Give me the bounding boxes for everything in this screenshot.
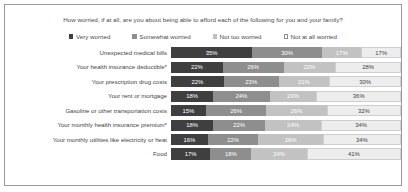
filled-square-icon xyxy=(132,34,137,39)
bar-segment: 24% xyxy=(251,148,306,159)
bar-segment: 22% xyxy=(171,62,223,73)
legend-item[interactable]: Somewhat worried xyxy=(132,33,190,40)
bar-row: Your prescription drug costs22%23%21%30% xyxy=(5,75,401,89)
chart-legend: Very worriedSomewhat worriedNot too worr… xyxy=(5,33,401,40)
bar-segment: 16% xyxy=(171,134,208,145)
stacked-bar: 18%24%20%36% xyxy=(171,91,401,102)
bar-segment: 18% xyxy=(210,148,251,159)
chart-container: How worried, if at all, are you about be… xyxy=(4,4,402,186)
bar-segment: 30% xyxy=(329,76,401,87)
category-label: Your monthly health insurance premium* xyxy=(5,122,171,128)
bar-segment: 41% xyxy=(307,148,401,159)
category-label: Unexpected medical bills xyxy=(5,50,171,56)
bar-row: Your monthly health insurance premium*18… xyxy=(5,118,401,132)
bar-segment: 15% xyxy=(171,105,206,116)
stacked-bar: 15%26%26%32% xyxy=(171,105,401,116)
bar-segment: 34% xyxy=(323,134,401,145)
bar-segment: 22% xyxy=(284,62,336,73)
stacked-bar: 17%18%24%41% xyxy=(171,148,401,159)
bar-segment: 17% xyxy=(361,47,400,58)
bar-segment: 35% xyxy=(171,47,252,58)
stacked-bar: 16%22%28%34% xyxy=(171,134,401,145)
stacked-bar-plot: Unexpected medical bills35%30%17%17%Your… xyxy=(5,46,401,162)
bar-segment: 17% xyxy=(322,47,361,58)
stacked-bar: 22%23%21%30% xyxy=(171,76,401,87)
category-label: Your monthly utilities like electricity … xyxy=(5,137,171,143)
filled-square-icon xyxy=(213,34,218,39)
category-label: Gasoline or other transportation costs xyxy=(5,108,171,114)
bar-row: Your health insurance deductible*22%26%2… xyxy=(5,60,401,74)
legend-label: Very worried xyxy=(76,33,110,40)
stacked-bar: 18%22%24%34% xyxy=(171,120,401,131)
bar-segment: 26% xyxy=(206,105,266,116)
legend-item[interactable]: Not at all worried xyxy=(284,33,337,40)
legend-item[interactable]: Very worried xyxy=(69,33,110,40)
bar-segment: 18% xyxy=(171,91,213,102)
category-label: Your health insurance deductible* xyxy=(5,64,171,70)
bar-segment: 24% xyxy=(265,120,321,131)
bar-segment: 30% xyxy=(252,47,322,58)
bar-row: Your monthly utilities like electricity … xyxy=(5,133,401,147)
bar-segment: 32% xyxy=(327,105,401,116)
legend-label: Not too worried xyxy=(220,33,262,40)
chart-title: How worried, if at all, are you about be… xyxy=(5,16,401,23)
bar-segment: 21% xyxy=(279,76,329,87)
bar-segment: 23% xyxy=(224,76,279,87)
legend-label: Somewhat worried xyxy=(139,33,190,40)
filled-square-icon xyxy=(69,34,74,39)
bar-segment: 22% xyxy=(213,120,265,131)
stacked-bar: 35%30%17%17% xyxy=(171,47,401,58)
stacked-bar: 22%26%22%28% xyxy=(171,62,401,73)
category-label: Your prescription drug costs xyxy=(5,79,171,85)
bar-row: Gasoline or other transportation costs15… xyxy=(5,104,401,118)
bar-segment: 26% xyxy=(266,105,326,116)
bar-segment: 22% xyxy=(208,134,259,145)
category-label: Food xyxy=(5,151,171,157)
bar-row: Unexpected medical bills35%30%17%17% xyxy=(5,46,401,60)
bar-segment: 22% xyxy=(171,76,224,87)
bar-segment: 28% xyxy=(258,134,322,145)
bar-row: Food17%18%24%41% xyxy=(5,147,401,161)
bar-segment: 28% xyxy=(335,62,401,73)
bar-row: Your rent or mortgage18%24%20%36% xyxy=(5,89,401,103)
bar-segment: 36% xyxy=(316,91,400,102)
legend-label: Not at all worried xyxy=(291,33,337,40)
category-label: Your rent or mortgage xyxy=(5,93,171,99)
outlined-square-icon xyxy=(284,34,289,39)
bar-segment: 24% xyxy=(213,91,269,102)
bar-segment: 20% xyxy=(270,91,317,102)
bar-segment: 26% xyxy=(223,62,284,73)
bar-segment: 17% xyxy=(171,148,210,159)
legend-item[interactable]: Not too worried xyxy=(213,33,262,40)
bar-segment: 18% xyxy=(171,120,213,131)
bar-segment: 34% xyxy=(321,120,401,131)
